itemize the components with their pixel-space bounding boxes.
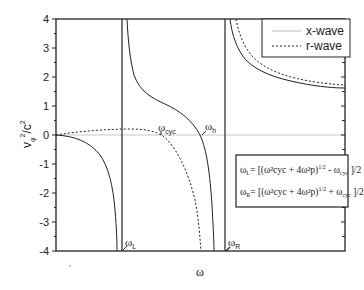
y-tick-neg4: -4 [39,245,49,257]
y-tick-labels: 4 3 2 1 0 -1 -2 -3 -4 [39,13,49,257]
y-tick-4: 4 [43,13,49,25]
y-tick-2: 2 [43,71,49,83]
svg-text:r-wave: r-wave [306,39,342,53]
label-omega-cyc: ωcyc [158,121,176,136]
x-axis-title: ω [196,265,204,279]
svg-text:ωh: ωh [205,120,216,134]
svg-text:ωL: ωL [125,236,136,250]
svg-text:x-wave: x-wave [306,24,344,38]
x-wave-branch-1 [56,135,117,251]
svg-text:vφ2/c2: vφ2/c2 [19,120,37,148]
label-omega-h: ωh [202,120,216,135]
dispersion-chart: 4 3 2 1 0 -1 -2 -3 -4 vφ2/c2 ω ωL ωR ωcy… [0,0,364,290]
stray-dot [69,265,70,266]
label-omega-L: ωL [123,236,136,250]
y-tick-neg3: -3 [39,216,49,228]
legend: x-wave r-wave [262,19,350,57]
y-tick-neg1: -1 [39,158,49,170]
y-tick-0: 0 [43,129,49,141]
r-wave-branch-1 [56,129,201,251]
label-omega-R: ωR [226,236,240,251]
y-axis-title: vφ2/c2 [19,120,37,148]
y-tick-3: 3 [43,42,49,54]
y-tick-1: 1 [43,100,49,112]
equation-box: ωL= [(ω²cyc + 4ω²p)1/2 - ωcyc ]/2 ωR= [(… [236,155,364,207]
y-tick-neg2: -2 [39,187,49,199]
